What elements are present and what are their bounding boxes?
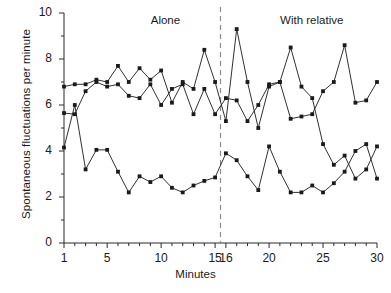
data-point (202, 179, 206, 183)
data-point (127, 94, 131, 98)
data-point (375, 177, 379, 181)
data-point (148, 82, 152, 86)
data-point (354, 177, 358, 181)
data-point (343, 43, 347, 47)
data-point (289, 117, 293, 121)
x-axis-label: Minutes (0, 268, 391, 280)
data-point (192, 184, 196, 188)
data-point (343, 170, 347, 174)
data-point (138, 96, 142, 100)
data-point (148, 180, 152, 184)
data-point (246, 174, 250, 178)
data-point (62, 146, 66, 150)
data-point (256, 126, 260, 130)
with-relative-label: With relative (280, 14, 340, 26)
data-point (213, 112, 217, 116)
data-point (235, 27, 239, 31)
data-point (73, 82, 77, 86)
data-point (62, 85, 66, 89)
data-point (62, 111, 66, 115)
data-point (332, 80, 336, 84)
data-point (84, 82, 88, 86)
data-point (94, 148, 98, 152)
data-point (375, 80, 379, 84)
data-point (105, 148, 109, 152)
x-tick-label: 1 (49, 251, 79, 265)
data-point (116, 170, 120, 174)
data-point (256, 188, 260, 192)
data-point (170, 186, 174, 190)
data-point (332, 163, 336, 167)
y-tick-label: 8 (30, 51, 52, 65)
chart-figure: Spontaneous fluctuations per minute Minu… (0, 0, 391, 293)
y-tick-label: 10 (30, 5, 52, 19)
data-point (246, 80, 250, 84)
data-point (364, 168, 368, 172)
data-point (310, 96, 314, 100)
data-point (354, 101, 358, 105)
x-tick-label: 10 (146, 251, 176, 265)
data-point (170, 101, 174, 105)
chart-plot-area (0, 0, 391, 293)
data-point (127, 80, 131, 84)
data-point (256, 103, 260, 107)
data-point (246, 119, 250, 123)
data-point (202, 87, 206, 91)
y-tick-label: 0 (30, 235, 52, 249)
alone-label: Alone (135, 14, 195, 26)
data-point (224, 151, 228, 155)
data-point (84, 168, 88, 172)
data-point (116, 82, 120, 86)
data-point (192, 87, 196, 91)
data-point (94, 80, 98, 84)
data-point (300, 115, 304, 119)
data-point (159, 69, 163, 73)
data-point (235, 99, 239, 103)
data-point (138, 174, 142, 178)
data-point (375, 145, 379, 149)
data-point (224, 119, 228, 123)
data-point (170, 87, 174, 91)
series-upper (62, 27, 379, 130)
data-point (159, 174, 163, 178)
data-point (224, 96, 228, 100)
data-point (300, 191, 304, 195)
data-point (202, 48, 206, 52)
data-point (148, 78, 152, 82)
data-point (84, 89, 88, 93)
data-point (181, 191, 185, 195)
data-point (105, 85, 109, 89)
data-point (364, 99, 368, 103)
data-point (321, 89, 325, 93)
data-point (289, 46, 293, 50)
data-point (310, 112, 314, 116)
y-tick-label: 6 (30, 97, 52, 111)
data-point (213, 80, 217, 84)
data-point (181, 82, 185, 86)
y-tick-label: 2 (30, 189, 52, 203)
data-point (235, 158, 239, 162)
y-tick-label: 4 (30, 143, 52, 157)
data-point (267, 82, 271, 86)
data-point (213, 176, 217, 180)
data-point (354, 149, 358, 153)
data-point (364, 142, 368, 146)
x-tick-label: 20 (254, 251, 284, 265)
series-middle-line (64, 48, 377, 179)
data-point (138, 66, 142, 70)
data-point (310, 184, 314, 188)
data-point (289, 191, 293, 195)
x-tick-label: 30 (362, 251, 391, 265)
data-point (278, 80, 282, 84)
data-point (267, 145, 271, 149)
data-point (73, 103, 77, 107)
data-point (300, 85, 304, 89)
data-point (332, 181, 336, 185)
data-point (321, 142, 325, 146)
data-point (127, 191, 131, 195)
data-point (116, 64, 120, 68)
x-tick-label: 25 (308, 251, 338, 265)
data-point (321, 191, 325, 195)
data-point (159, 103, 163, 107)
x-tick-label: 5 (92, 251, 122, 265)
